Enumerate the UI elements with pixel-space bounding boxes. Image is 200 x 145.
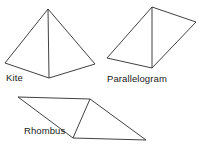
kite-label: Kite <box>6 72 23 83</box>
kite-outline <box>5 9 95 78</box>
parallelogram-label: Parallelogram <box>107 73 167 84</box>
kite-shape <box>5 9 95 78</box>
parallelogram-shape <box>107 7 196 68</box>
kite-diagonal-line <box>48 9 49 78</box>
shapes-canvas <box>0 0 200 145</box>
parallelogram-outline <box>107 7 196 68</box>
rhombus-diagonal-line <box>73 99 90 138</box>
rhombus-label: Rhombus <box>24 125 65 136</box>
quadrilaterals-diagram: Kite Parallelogram Rhombus <box>0 0 200 145</box>
